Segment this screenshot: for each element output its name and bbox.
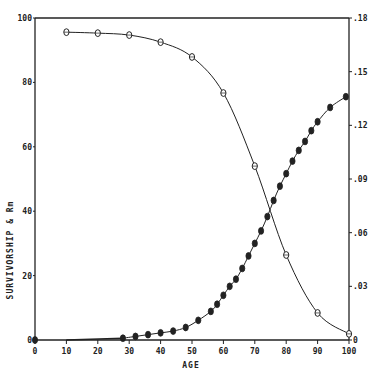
filled-circle-marker [258,227,263,234]
x-tick-label: 40 [156,347,166,356]
filled-circle-marker [196,317,201,324]
filled-circle-marker [240,265,245,272]
survivorship-rm-chart: 01020304050607080901000204060801000.03.0… [0,0,376,378]
x-tick-label: 80 [281,347,291,356]
filled-circle-marker [183,324,188,331]
axes: 01020304050607080901000204060801000.03.0… [18,14,368,356]
y2-tick-label: .06 [353,229,368,238]
filled-circle-marker [145,331,150,338]
filled-circle-marker [233,276,238,283]
x-tick-label: 30 [124,347,134,356]
survivorship-curve [66,32,349,334]
filled-circle-marker [32,337,37,344]
filled-circle-marker [133,333,138,340]
filled-circle-marker [328,104,333,111]
filled-circle-marker [171,328,176,335]
x-tick-label: 10 [62,347,72,356]
filled-circle-marker [158,329,163,336]
filled-circle-marker [221,292,226,299]
x-tick-label: 100 [342,347,357,356]
x-tick-label: 60 [219,347,229,356]
x-tick-label: 0 [33,347,38,356]
y-tick-label: 20 [22,272,32,281]
y2-tick-label: .15 [353,68,368,77]
filled-circle-marker [296,147,301,154]
filled-circle-marker [215,301,220,308]
filled-circle-marker [120,335,125,342]
x-tick-label: 20 [93,347,103,356]
filled-circle-marker [271,197,276,204]
filled-circle-marker [227,283,232,290]
filled-circle-marker [277,183,282,190]
y2-tick-label: .18 [353,14,368,23]
filled-circle-marker [252,240,257,247]
filled-circle-marker [246,253,251,260]
y-tick-label: 0 [27,336,32,345]
y-tick-label: 80 [22,78,32,87]
y-tick-label: 100 [18,14,33,23]
filled-circle-marker [284,170,289,177]
filled-circle-marker [315,118,320,125]
filled-circle-marker [302,138,307,145]
y-tick-label: 40 [22,207,32,216]
filled-circle-marker [208,308,213,315]
filled-circle-marker [290,158,295,165]
y2-tick-label: 0 [353,336,358,345]
x-tick-label: 50 [187,347,197,356]
y-axis-title: SURVIVORSHIP & Rm [6,201,15,300]
filled-circle-marker [343,93,348,100]
series-layer [32,29,351,344]
y2-tick-label: .09 [353,175,368,184]
filled-circle-marker [265,213,270,220]
y2-tick-label: .12 [353,121,368,130]
y2-tick-label: .03 [353,282,368,291]
y-tick-label: 60 [22,143,32,152]
x-tick-label: 70 [250,347,260,356]
x-axis-title: AGE [182,361,199,370]
x-tick-label: 90 [313,347,323,356]
filled-circle-marker [309,127,314,134]
